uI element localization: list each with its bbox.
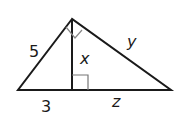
right-angle-marker-foot bbox=[72, 75, 88, 90]
label-z: z bbox=[111, 92, 121, 111]
label-x: x bbox=[79, 49, 90, 68]
right-angle-marker-apex bbox=[66, 27, 82, 38]
outer-triangle bbox=[18, 19, 171, 90]
label-left-leg: 5 bbox=[29, 42, 39, 61]
triangle-diagram: 5 y x 3 z bbox=[0, 0, 177, 127]
label-3: 3 bbox=[41, 97, 51, 116]
label-y: y bbox=[126, 32, 137, 51]
